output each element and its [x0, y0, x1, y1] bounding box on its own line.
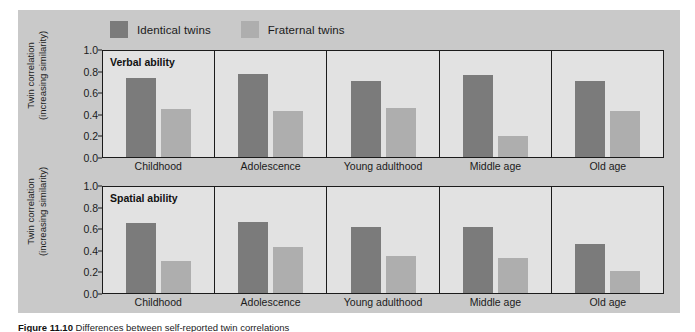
- y-axis-tick-label: 0.2: [83, 130, 98, 142]
- legend-label-identical-twins: Identical twins: [137, 24, 211, 36]
- bar-identical-twins: [575, 244, 605, 293]
- bar-identical-twins: [351, 227, 381, 293]
- plot-area-verbal: Verbal ability: [102, 50, 664, 158]
- chart-panel-middle-age: [440, 187, 552, 293]
- bar-identical-twins: [463, 75, 493, 157]
- bar-identical-twins: [238, 74, 268, 157]
- bar-group: [552, 187, 663, 293]
- plot-area-spatial: Spatial ability: [102, 186, 664, 294]
- chart-panel-young-adulthood: [327, 187, 439, 293]
- bar-identical-twins: [126, 223, 156, 293]
- y-axis-ticks-spatial: 1.00.80.60.40.20.0: [74, 186, 98, 294]
- bar-identical-twins: [575, 81, 605, 157]
- y-axis-tick-label: 0.2: [83, 266, 98, 278]
- y-axis-tick-label: 0.0: [83, 288, 98, 300]
- bar-group: [552, 51, 663, 157]
- y-axis-tick-mark: [98, 136, 102, 137]
- y-axis-tick-mark: [98, 158, 102, 159]
- x-axis-category-label: Adolescence: [214, 160, 326, 172]
- chart-panel-old-age: [552, 187, 663, 293]
- bar-group: [327, 187, 438, 293]
- chart-panel-adolescence: [215, 187, 327, 293]
- y-axis-tick-label: 0.8: [83, 66, 98, 78]
- chart-legend: Identical twins Fraternal twins: [110, 21, 345, 38]
- y-axis-tick-mark: [98, 294, 102, 295]
- chart-panel-childhood: Spatial ability: [103, 187, 215, 293]
- x-axis-category-label: Young adulthood: [327, 296, 439, 308]
- y-axis-tick-label: 0.6: [83, 87, 98, 99]
- x-axis-category-label: Old age: [552, 160, 664, 172]
- figure-caption-text: Differences between self-reported twin c…: [76, 322, 290, 332]
- y-axis-tick-label: 0.6: [83, 223, 98, 235]
- bar-group: [440, 51, 551, 157]
- y-axis-tick-label: 1.0: [83, 180, 98, 192]
- y-axis-title-verbal: Twin correlation (increasing similarity): [25, 22, 48, 130]
- y-axis-tick-mark: [98, 250, 102, 251]
- bar-group: [440, 187, 551, 293]
- bar-fraternal-twins: [273, 111, 303, 157]
- y-axis-tick-mark: [98, 71, 102, 72]
- bar-fraternal-twins: [386, 256, 416, 293]
- chart-panel-adolescence: [215, 51, 327, 157]
- bar-fraternal-twins: [386, 108, 416, 157]
- x-axis-category-label: Old age: [552, 296, 664, 308]
- y-axis-title-line2: (increasing similarity): [36, 22, 48, 130]
- legend-entry-identical-twins: Identical twins: [110, 21, 211, 38]
- x-axis-categories-verbal: ChildhoodAdolescenceYoung adulthoodMiddl…: [102, 160, 664, 172]
- bar-group: [215, 187, 326, 293]
- x-axis-category-label: Adolescence: [214, 296, 326, 308]
- legend-swatch-identical-twins: [110, 21, 128, 38]
- bar-fraternal-twins: [161, 261, 191, 293]
- bar-identical-twins: [238, 222, 268, 293]
- x-axis-category-label: Middle age: [439, 296, 551, 308]
- bar-fraternal-twins: [498, 136, 528, 157]
- y-axis-tick-mark: [98, 93, 102, 94]
- bar-identical-twins: [351, 81, 381, 157]
- y-axis-title-line2: (increasing similarity): [36, 158, 48, 266]
- x-axis-category-label: Middle age: [439, 160, 551, 172]
- chart-panel-middle-age: [440, 51, 552, 157]
- legend-label-fraternal-twins: Fraternal twins: [268, 24, 345, 36]
- bar-fraternal-twins: [498, 258, 528, 293]
- figure-caption-number: Figure 11.10: [18, 322, 73, 332]
- y-axis-title-line1: Twin correlation: [25, 158, 37, 266]
- bar-group: [327, 51, 438, 157]
- bar-group: [103, 187, 214, 293]
- chart-panel-old-age: [552, 51, 663, 157]
- y-axis-tick-label: 0.4: [83, 245, 98, 257]
- bar-identical-twins: [463, 227, 493, 293]
- bar-fraternal-twins: [610, 271, 640, 293]
- chart-panel-young-adulthood: [327, 51, 439, 157]
- y-axis-ticks-verbal: 1.00.80.60.40.20.0: [74, 50, 98, 158]
- y-axis-tick-mark: [98, 229, 102, 230]
- y-axis-tick-mark: [98, 186, 102, 187]
- chart-panel-childhood: Verbal ability: [103, 51, 215, 157]
- y-axis-title-line1: Twin correlation: [25, 22, 37, 130]
- bar-identical-twins: [126, 78, 156, 157]
- figure-caption: Figure 11.10 Differences between self-re…: [18, 322, 678, 332]
- legend-swatch-fraternal-twins: [241, 21, 259, 38]
- y-axis-tick-mark: [98, 207, 102, 208]
- bar-group: [103, 51, 214, 157]
- y-axis-tick-label: 0.0: [83, 152, 98, 164]
- bar-fraternal-twins: [161, 109, 191, 157]
- figure-container: Identical twins Fraternal twins Twin cor…: [0, 0, 695, 332]
- bar-group: [215, 51, 326, 157]
- bar-fraternal-twins: [273, 247, 303, 293]
- bar-fraternal-twins: [610, 111, 640, 157]
- y-axis-title-spatial: Twin correlation (increasing similarity): [25, 158, 48, 266]
- y-axis-tick-label: 0.4: [83, 109, 98, 121]
- legend-entry-fraternal-twins: Fraternal twins: [241, 21, 345, 38]
- y-axis-tick-mark: [98, 114, 102, 115]
- y-axis-tick-mark: [98, 272, 102, 273]
- x-axis-category-label: Childhood: [102, 296, 214, 308]
- y-axis-tick-label: 1.0: [83, 44, 98, 56]
- x-axis-categories-spatial: ChildhoodAdolescenceYoung adulthoodMiddl…: [102, 296, 664, 308]
- x-axis-category-label: Childhood: [102, 160, 214, 172]
- y-axis-tick-mark: [98, 50, 102, 51]
- x-axis-category-label: Young adulthood: [327, 160, 439, 172]
- y-axis-tick-label: 0.8: [83, 202, 98, 214]
